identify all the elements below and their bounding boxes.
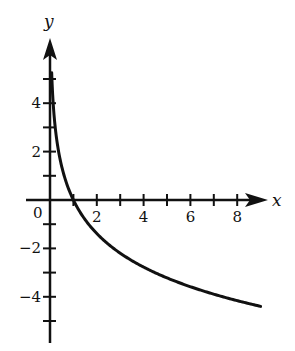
y-tick-label: 4 (31, 94, 41, 112)
origin-label: 0 (33, 204, 43, 222)
function-curve (52, 73, 261, 307)
y-tick-label: 2 (31, 143, 41, 161)
x-tick-label: 2 (92, 208, 102, 226)
x-tick-label: 8 (232, 208, 242, 226)
y-axis-label: y (43, 11, 54, 31)
x-tick-label: 6 (186, 208, 196, 226)
y-tick-label: −4 (19, 288, 41, 306)
y-tick-label: −2 (19, 239, 41, 257)
x-tick-label: 4 (139, 208, 149, 226)
axes (26, 38, 268, 343)
x-axis-label: x (272, 190, 282, 210)
chart-plot-area: 246842−2−4 x y 0 (0, 0, 295, 351)
